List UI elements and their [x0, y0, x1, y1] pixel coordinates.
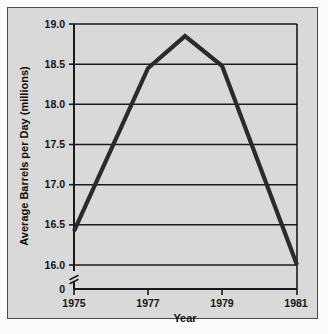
y-tick-label-19-0: 19.0 [45, 18, 66, 30]
x-tick-label-1981: 1981 [284, 297, 308, 309]
y-tick-label-16-0: 16.0 [45, 259, 66, 271]
chart-figure: 19.0 18.5 18.0 17.5 17.0 16.5 16.0 0 197… [0, 0, 328, 334]
x-tick-label-1979: 1979 [210, 297, 234, 309]
y-tick-label-zero: 0 [59, 283, 65, 295]
y-tick-label-18-5: 18.5 [45, 58, 66, 70]
y-axis-break-icon [70, 276, 78, 284]
y-tick-label-18-0: 18.0 [45, 98, 66, 110]
line-chart: 19.0 18.5 18.0 17.5 17.0 16.5 16.0 0 197… [0, 0, 328, 334]
y-tick-label-17-5: 17.5 [45, 138, 66, 150]
x-tick-labels: 1975 1977 1979 1981 [62, 297, 308, 309]
y-tick-label-17-0: 17.0 [45, 178, 66, 190]
y-tick-label-16-5: 16.5 [45, 218, 66, 230]
y-axis-title: Average Barrels per Day (millions) [18, 66, 30, 246]
x-tick-label-1977: 1977 [136, 297, 160, 309]
x-tick-label-1975: 1975 [62, 297, 86, 309]
x-axis-title: Year [173, 312, 197, 324]
y-tick-labels: 19.0 18.5 18.0 17.5 17.0 16.5 16.0 0 [45, 18, 66, 295]
